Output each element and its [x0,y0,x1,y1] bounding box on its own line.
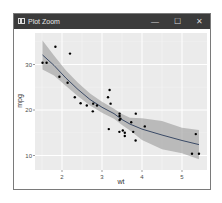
svg-text:3: 3 [100,174,104,180]
svg-text:5: 5 [180,174,184,180]
svg-text:20: 20 [25,107,32,113]
y-axis: 102030 [25,62,35,159]
svg-text:2: 2 [60,174,64,180]
y-axis-label: mpg [16,94,24,108]
scatter-plot: 2345 102030 wt mpg [0,0,222,203]
svg-text:30: 30 [25,62,32,68]
svg-text:10: 10 [25,153,32,159]
svg-text:4: 4 [140,174,144,180]
x-axis-label: wt [117,178,125,185]
